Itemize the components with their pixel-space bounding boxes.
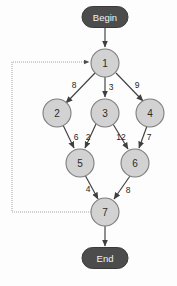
edge-weight-3-6: 12 <box>116 132 126 142</box>
node-4-label: 4 <box>147 108 153 119</box>
node-1[interactable]: 1 <box>91 49 119 77</box>
edge-weight-1-4: 9 <box>135 80 140 90</box>
feedback-loop-path <box>12 62 91 212</box>
edge-1-to-4: 9 <box>116 73 143 101</box>
edge-weight-1-2: 8 <box>72 80 77 90</box>
node-6[interactable]: 6 <box>121 149 149 177</box>
edge-3-to-6: 12 <box>113 124 128 149</box>
edge-weight-4-6: 7 <box>147 132 152 142</box>
node-begin[interactable]: Begin <box>82 7 128 28</box>
end-label: End <box>97 253 114 264</box>
node-7-label: 7 <box>102 207 108 218</box>
edge-6-to-7: 8 <box>114 176 131 199</box>
node-4[interactable]: 4 <box>136 99 164 127</box>
node-5-label: 5 <box>77 158 83 169</box>
graph-diagram-canvas: 8 3 9 6 2 12 7 <box>0 0 177 286</box>
edge-1-to-3: 3 <box>105 77 114 97</box>
edge-weight-5-7: 4 <box>86 184 91 194</box>
node-2[interactable]: 2 <box>43 99 71 127</box>
node-7[interactable]: 7 <box>91 198 119 226</box>
edge-weight-3-5: 2 <box>86 132 91 142</box>
edge-weight-2-5: 6 <box>74 132 79 142</box>
node-3-label: 3 <box>102 108 108 119</box>
node-6-label: 6 <box>132 158 138 169</box>
node-1-label: 1 <box>102 58 108 69</box>
edge-1-to-2: 8 <box>66 73 95 103</box>
edge-5-to-7: 4 <box>85 175 98 199</box>
edge-2-to-5: 6 <box>63 125 79 148</box>
edge-4-to-6: 7 <box>139 126 152 148</box>
node-3[interactable]: 3 <box>91 99 119 127</box>
edge-7-to-1-feedback <box>12 62 91 212</box>
begin-label: Begin <box>93 12 117 23</box>
edge-3-to-5: 2 <box>85 124 96 148</box>
edge-weight-1-3: 3 <box>109 82 114 92</box>
node-end[interactable]: End <box>82 248 128 269</box>
edge-weight-6-7: 8 <box>126 185 131 195</box>
edge-line <box>66 73 95 103</box>
edge-line <box>63 125 74 148</box>
node-2-label: 2 <box>54 108 60 119</box>
node-5[interactable]: 5 <box>66 149 94 177</box>
graph-svg: 8 3 9 6 2 12 7 <box>0 0 177 286</box>
